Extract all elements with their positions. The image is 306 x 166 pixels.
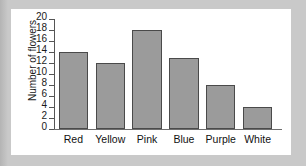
bar [96,63,125,129]
x-axis-label: White [239,133,276,145]
y-tick-mark [49,107,54,108]
bar [132,30,161,129]
y-tick-label: 8 [41,78,47,88]
x-axis-label: Blue [166,133,203,145]
bar [206,85,235,129]
bar-slot: Red [55,19,92,129]
y-tick-mark [49,41,54,42]
y-tick-mark [49,74,54,75]
y-tick-mark [49,19,54,20]
y-tick-label: 10 [36,67,47,77]
y-tick-mark [49,30,54,31]
bar-slot: Pink [129,19,166,129]
y-tick-mark [49,52,54,53]
y-tick-label: 0 [41,122,47,132]
x-axis-label: Yellow [92,133,129,145]
bar-slot: Blue [166,19,203,129]
y-tick-label: 12 [36,56,47,66]
chart-card: Number of flowers 20181614121086420 RedY… [11,9,291,155]
y-tick-mark [49,85,54,86]
y-tick-label: 2 [41,111,47,121]
plot-area: 20181614121086420 RedYellowPinkBluePurpl… [54,19,276,129]
x-axis-label: Pink [129,133,166,145]
bar-series: RedYellowPinkBluePurpleWhite [55,19,276,129]
bar-slot: White [239,19,276,129]
x-axis-label: Purple [202,133,239,145]
y-tick-label: 14 [36,45,47,55]
bar [243,107,272,129]
y-tick-label: 18 [36,23,47,33]
y-tick-mark [49,118,54,119]
y-tick-mark [49,96,54,97]
chart-page: Number of flowers 20181614121086420 RedY… [0,0,306,166]
bar [169,58,198,130]
x-axis-label: Red [55,133,92,145]
y-tick-label: 16 [36,34,47,44]
bar [59,52,88,129]
y-tick-label: 4 [41,100,47,110]
y-tick-mark [49,63,54,64]
bar-slot: Purple [202,19,239,129]
y-tick-label: 20 [36,12,47,22]
bar-slot: Yellow [92,19,129,129]
y-tick-mark [49,129,54,130]
x-axis-line [54,129,282,130]
y-tick-label: 6 [41,89,47,99]
